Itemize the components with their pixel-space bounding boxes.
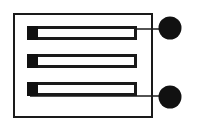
meander-trace-bottom (29, 84, 136, 95)
trace-end-cap-top-left (27, 26, 38, 40)
meander-trace-middle (29, 56, 136, 67)
meander-traces-group (29, 28, 136, 95)
figure-container (0, 0, 200, 130)
contact-pad-top-icon (159, 17, 182, 40)
trace-end-cap-middle-left (27, 54, 38, 68)
trace-end-cap-bottom-left (27, 82, 38, 96)
serpentine-electrode-diagram (0, 0, 200, 130)
trace-end-caps-left-group (27, 26, 38, 96)
contact-pad-bottom-icon (159, 86, 182, 109)
meander-trace-top (29, 28, 136, 39)
